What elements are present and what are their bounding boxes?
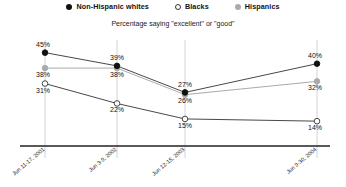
data-label: 32%: [308, 84, 322, 91]
data-label: 40%: [308, 52, 322, 59]
data-label: 27%: [178, 81, 192, 88]
data-label: 45%: [36, 41, 50, 48]
data-point: [314, 118, 320, 124]
data-label: 14%: [308, 124, 322, 131]
x-tick-label: Jun 12-15, 2003: [151, 146, 186, 177]
data-point: [182, 90, 188, 96]
data-label: 39%: [110, 54, 124, 61]
x-tick-label: Jun 9-30, 2004: [285, 146, 317, 175]
x-tick-label: Jun 11-17, 2001: [11, 146, 46, 176]
data-label: 31%: [36, 87, 50, 94]
data-label: 26%: [178, 97, 192, 104]
data-label: 38%: [36, 71, 50, 78]
data-label: 15%: [178, 122, 192, 129]
x-tick-label: Jun 3-9, 2002: [88, 146, 118, 173]
x-tick-labels: Jun 11-17, 2001Jun 3-9, 2002Jun 12-15, 2…: [11, 146, 318, 177]
data-label: 22%: [110, 106, 124, 113]
data-point: [182, 116, 188, 122]
data-point: [42, 50, 48, 56]
data-label: 38%: [110, 71, 124, 78]
data-point: [314, 61, 320, 67]
chart-plot-area: 45%39%27%40%31%22%15%14%38%38%26%32% Jun…: [0, 0, 346, 187]
chart-container: Non-Hispanic whites Blacks Hispanics Per…: [0, 0, 346, 187]
data-point: [114, 63, 120, 69]
data-point: [114, 101, 120, 107]
data-point: [42, 81, 48, 87]
